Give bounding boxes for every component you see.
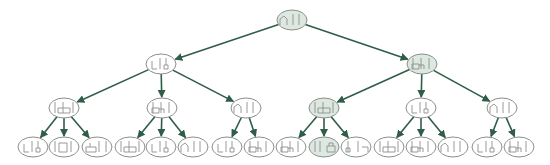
tree-node-n15[interactable] <box>212 137 242 157</box>
tree-node-n4[interactable] <box>147 98 177 118</box>
edge-layer <box>41 24 515 137</box>
tree-node-n0[interactable] <box>277 10 307 30</box>
node-ellipse[interactable] <box>18 137 48 157</box>
tree-node-n13[interactable] <box>146 137 176 157</box>
node-ellipse[interactable] <box>231 98 261 118</box>
tree-edge <box>331 117 348 138</box>
tree-edge <box>421 74 422 97</box>
tree-node-n3[interactable] <box>49 98 79 118</box>
tree-edge <box>77 70 148 102</box>
tree-edge <box>434 70 490 101</box>
node-ellipse[interactable] <box>406 98 436 118</box>
tree-node-n14[interactable] <box>178 137 208 157</box>
tree-edge <box>506 118 514 137</box>
tree-edge <box>161 74 162 97</box>
node-ellipse[interactable] <box>212 137 242 157</box>
tree-edge <box>41 117 57 138</box>
node-ellipse[interactable] <box>146 54 176 74</box>
node-ellipse[interactable] <box>276 137 306 157</box>
tree-node-n24[interactable] <box>504 137 534 157</box>
tree-node-n9[interactable] <box>18 137 48 157</box>
node-ellipse[interactable] <box>309 137 339 157</box>
tree-node-n22[interactable] <box>438 137 468 157</box>
node-ellipse[interactable] <box>178 137 208 157</box>
node-ellipse[interactable] <box>406 137 436 157</box>
tree-node-n16[interactable] <box>244 137 274 157</box>
tree-edge <box>232 118 241 137</box>
tree-diagram <box>0 0 550 165</box>
node-ellipse[interactable] <box>277 10 307 30</box>
tree-node-n23[interactable] <box>472 137 502 157</box>
node-ellipse[interactable] <box>49 137 79 157</box>
tree-node-n8[interactable] <box>487 98 517 118</box>
node-ellipse[interactable] <box>504 137 534 157</box>
tree-node-n21[interactable] <box>406 137 436 157</box>
tree-edge <box>175 24 278 59</box>
tree-edge <box>305 25 407 60</box>
tree-edge <box>71 117 89 138</box>
node-ellipse[interactable] <box>244 137 274 157</box>
tree-node-n20[interactable] <box>374 137 404 157</box>
tree-node-n1[interactable] <box>146 54 176 74</box>
node-ellipse[interactable] <box>487 98 517 118</box>
node-ellipse[interactable] <box>438 137 468 157</box>
tree-node-n19[interactable] <box>341 137 371 157</box>
tree-edge <box>169 117 185 138</box>
tree-edge <box>337 70 409 102</box>
tree-edge <box>249 118 255 137</box>
tree-node-n7[interactable] <box>406 98 436 118</box>
tree-node-n12[interactable] <box>115 137 145 157</box>
tree-edge <box>173 70 233 101</box>
node-ellipse[interactable] <box>472 137 502 157</box>
tree-edge <box>397 117 414 138</box>
node-ellipse[interactable] <box>407 54 437 74</box>
tree-edge <box>299 117 317 138</box>
tree-node-n6[interactable] <box>309 98 339 118</box>
tree-edge <box>428 117 445 138</box>
node-ellipse[interactable] <box>147 98 177 118</box>
tree-node-n17[interactable] <box>276 137 306 157</box>
tree-node-n2[interactable] <box>407 54 437 74</box>
node-ellipse[interactable] <box>146 137 176 157</box>
tree-edge <box>491 118 498 137</box>
tree-node-n18[interactable] <box>309 137 339 157</box>
tree-node-n11[interactable] <box>82 137 112 157</box>
tree-node-n5[interactable] <box>231 98 261 118</box>
tree-svg <box>0 0 550 165</box>
tree-edge <box>138 117 155 138</box>
tree-node-n10[interactable] <box>49 137 79 157</box>
